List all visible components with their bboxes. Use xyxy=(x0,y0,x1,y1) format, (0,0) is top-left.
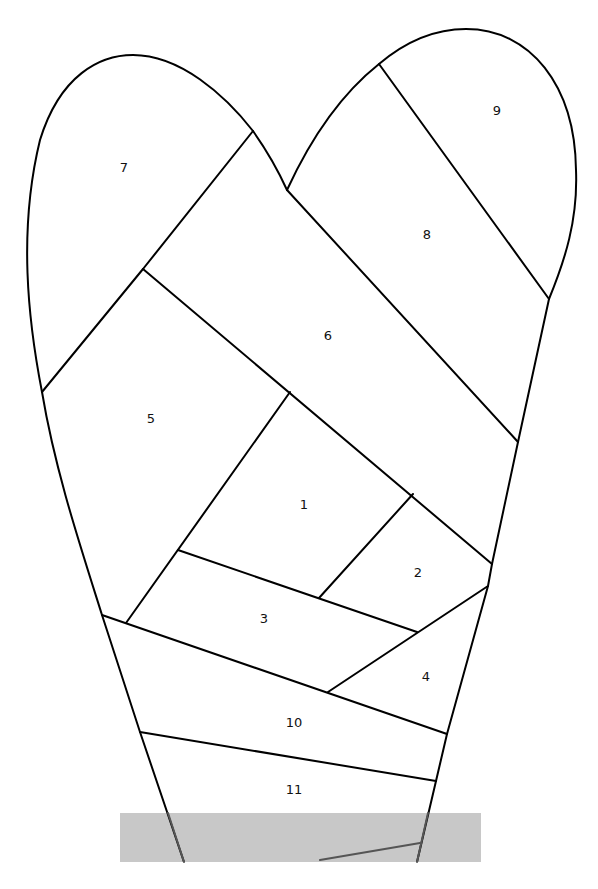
seam-7-5 xyxy=(42,269,143,392)
section-label-11: 11 xyxy=(286,782,303,797)
section-label-6: 6 xyxy=(324,328,332,343)
section-label-4: 4 xyxy=(422,669,430,684)
seam-5-1 xyxy=(126,392,290,623)
quilt-pattern-diagram: 1 2 3 4 5 6 7 8 9 10 11 xyxy=(0,0,598,889)
seam-3-10 xyxy=(102,615,447,734)
seam-5-6 xyxy=(143,269,492,564)
section-label-3: 3 xyxy=(260,611,268,626)
section-label-9: 9 xyxy=(493,103,501,118)
section-label-2: 2 xyxy=(414,565,422,580)
section-label-5: 5 xyxy=(147,411,155,426)
seam-10-11 xyxy=(140,732,436,781)
seam-8-9 xyxy=(379,64,549,299)
seam-7-6 xyxy=(143,131,253,269)
section-label-1: 1 xyxy=(300,497,308,512)
outer-outline xyxy=(27,29,576,862)
seam-6-8 xyxy=(287,190,518,442)
section-label-7: 7 xyxy=(120,160,128,175)
seam-1-2 xyxy=(319,494,413,598)
section-label-8: 8 xyxy=(423,227,431,242)
seam-1-3 xyxy=(178,550,417,632)
section-label-10: 10 xyxy=(286,715,303,730)
